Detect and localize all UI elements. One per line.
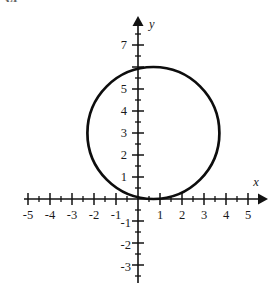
y-tick-label: 1 (121, 170, 127, 184)
coordinate-plane-figure: 34. (0, 0, 280, 293)
x-tick-label: -4 (45, 208, 56, 222)
y-tick-label: 3 (121, 126, 127, 140)
y-tick-label: 7 (121, 38, 127, 52)
y-tick-label: 2 (121, 148, 127, 162)
y-tick-label: 5 (121, 82, 127, 96)
y-tick-label: -2 (121, 238, 131, 252)
y-tick-label: -1 (121, 216, 131, 230)
y-axis-label: y (147, 17, 155, 31)
x-tick-label: 5 (245, 208, 251, 222)
x-axis-label: x (252, 175, 259, 189)
x-tick-label: 4 (223, 208, 230, 222)
circle-graph (87, 67, 219, 199)
x-tick-label: -3 (67, 208, 77, 222)
x-tick-label: 3 (201, 208, 207, 222)
graph-canvas: -5 -4 -3 -2 -1 1 2 3 4 5 7 5 4 3 2 1 -1 … (0, 0, 280, 293)
x-tick-label: -5 (23, 208, 33, 222)
problem-number-fragment: 34. (2, 0, 22, 2)
x-axis-arrowhead (258, 194, 268, 205)
y-tick-label: -3 (121, 260, 131, 274)
y-tick-label: 4 (121, 104, 128, 118)
x-tick-label: -2 (89, 208, 99, 222)
x-tick-label: 1 (157, 208, 163, 222)
x-tick-label: 2 (179, 208, 185, 222)
y-axis-arrowhead (133, 16, 144, 26)
